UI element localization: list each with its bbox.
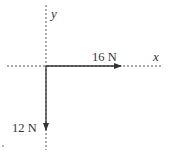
force-diagram: y x 16 N 12 N [0, 0, 170, 161]
y-axis-label: y [49, 6, 57, 21]
x-axis-label: x [152, 49, 159, 64]
force-label-16n: 16 N [92, 50, 117, 64]
force-label-12n: 12 N [12, 121, 37, 135]
